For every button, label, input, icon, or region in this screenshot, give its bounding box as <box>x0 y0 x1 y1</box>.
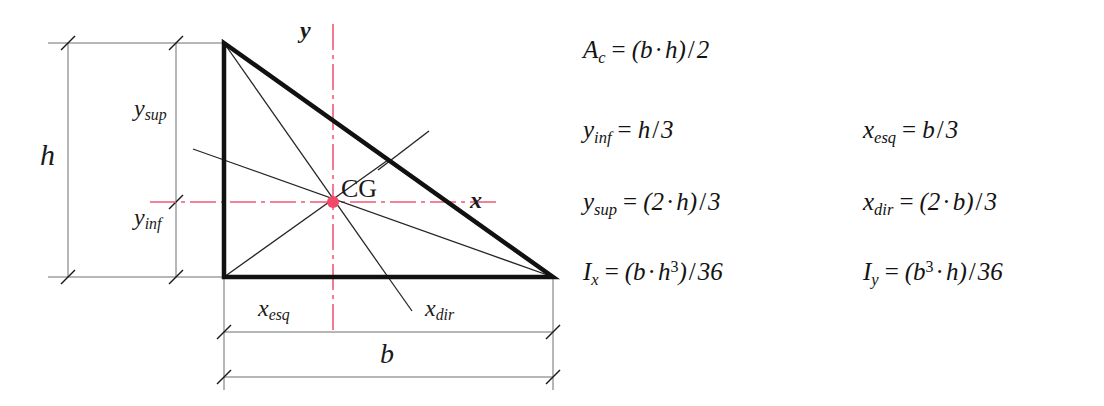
formula-x-dir: xdir=(2·b)/3 <box>863 188 997 219</box>
centroid-dot <box>327 196 339 208</box>
formula-y-sup-two: 2 <box>651 188 664 215</box>
axis-label-y: y <box>300 18 311 42</box>
formula-row-inertia: Ix=(b·h3)/36 Iy=(b3·h)/36 <box>575 258 1104 304</box>
y-sup-subscript: sup <box>145 106 167 123</box>
formula-ix-h: h <box>658 258 671 285</box>
formula-y-sup-divisor: 3 <box>708 188 721 215</box>
formula-area-lhs-sub: c <box>598 48 605 67</box>
axis-label-x: x <box>470 188 482 212</box>
formula-iy-equals: = <box>879 258 905 285</box>
dimension-ticks-vertical <box>61 36 183 284</box>
formula-y-inf-lhs: y <box>583 116 594 143</box>
formula-iy: Iy=(b3·h)/36 <box>863 258 1003 289</box>
formula-x-esq: xesq=b/3 <box>863 116 958 147</box>
formula-area-h: h <box>665 36 678 63</box>
centroid-label: CG <box>341 176 377 202</box>
formula-ix-equals: = <box>599 258 625 285</box>
formula-x-dir-open-paren: ( <box>919 188 927 215</box>
x-dir-subscript: dir <box>436 306 454 323</box>
formula-ix: Ix=(b·h3)/36 <box>583 258 723 289</box>
formula-list: Ac=(b·h)/2 yinf=h/3 xesq=b/3 ysup=(2·h)/… <box>575 0 1104 406</box>
formula-x-dir-equals: = <box>893 188 919 215</box>
triangle-centroid-diagram: h ysup yinf y x CG xesq xdir b <box>0 0 580 406</box>
formula-y-inf-equals: = <box>612 116 638 143</box>
x-esq-base: x <box>258 295 269 321</box>
y-inf-base: y <box>134 204 145 230</box>
formula-x-dir-lhs: x <box>863 188 874 215</box>
formula-iy-dot: · <box>934 258 946 285</box>
y-sup-base: y <box>134 95 145 121</box>
formula-x-esq-divisor: 3 <box>946 116 959 143</box>
formula-y-sup-lhs: y <box>583 188 594 215</box>
y-inf-subscript: inf <box>145 215 162 232</box>
formula-x-dir-two: 2 <box>928 188 941 215</box>
formula-y-sup-dot: · <box>664 188 676 215</box>
formula-x-esq-lhs-sub: esq <box>874 128 896 147</box>
formula-row-area: Ac=(b·h)/2 <box>575 36 1104 82</box>
formula-ix-divisor: 36 <box>698 258 723 285</box>
formula-area-open-paren: ( <box>632 36 640 63</box>
x-dir-base: x <box>425 295 436 321</box>
formula-area-slash: / <box>686 36 697 63</box>
formula-ix-slash: / <box>687 258 698 285</box>
formula-area-dot: · <box>653 36 665 63</box>
dimension-label-y-sup: ysup <box>134 96 167 123</box>
formula-y-inf-lhs-sub: inf <box>594 128 611 147</box>
formula-iy-b: b <box>913 258 926 285</box>
x-esq-subscript: esq <box>269 306 290 323</box>
formula-ix-lhs-sub: x <box>591 270 598 289</box>
formula-y-inf-slash: / <box>650 116 661 143</box>
formula-x-dir-divisor: 3 <box>984 188 997 215</box>
median-from-apex <box>224 43 388 277</box>
formula-area: Ac=(b·h)/2 <box>583 36 709 67</box>
formula-y-inf: yinf=h/3 <box>583 116 674 147</box>
centroidal-axes-group <box>150 24 497 330</box>
formula-iy-close-paren: ) <box>958 258 966 285</box>
formula-iy-exponent: 3 <box>926 258 934 275</box>
dimension-label-x-dir: xdir <box>425 296 454 323</box>
formula-area-equals: = <box>606 36 632 63</box>
formula-iy-open-paren: ( <box>905 258 913 285</box>
formula-x-dir-lhs-sub: dir <box>874 200 893 219</box>
formula-x-dir-b: b <box>953 188 966 215</box>
centroid-diagram-page: h ysup yinf y x CG xesq xdir b Ac=(b·h)/… <box>0 0 1104 406</box>
formula-x-dir-dot: · <box>940 188 952 215</box>
formula-iy-lhs-sub: y <box>871 270 878 289</box>
formula-y-sup-close-paren: ) <box>689 188 697 215</box>
formula-iy-slash: / <box>967 258 978 285</box>
dimension-label-h: h <box>40 140 55 170</box>
formula-area-divisor: 2 <box>697 36 710 63</box>
dimension-label-x-esq: xesq <box>258 296 290 323</box>
formula-x-esq-slash: / <box>935 116 946 143</box>
median-from-bottom-right <box>224 160 553 277</box>
formula-area-lhs: A <box>583 36 598 63</box>
median-tail-left <box>193 149 224 160</box>
formula-area-close-paren: ) <box>677 36 685 63</box>
formula-x-esq-b: b <box>922 116 935 143</box>
formula-ix-dot: · <box>646 258 658 285</box>
formula-y-sup-slash: / <box>697 188 708 215</box>
formula-y-inf-h: h <box>638 116 651 143</box>
diagram-svg <box>0 0 580 406</box>
formula-y-sup-lhs-sub: sup <box>594 200 617 219</box>
leader-line-hypotenuse <box>378 131 429 170</box>
formula-y-sup: ysup=(2·h)/3 <box>583 188 721 219</box>
formula-iy-divisor: 36 <box>978 258 1003 285</box>
formula-y-sup-equals: = <box>617 188 643 215</box>
formula-x-esq-equals: = <box>896 116 922 143</box>
formula-ix-open-paren: ( <box>625 258 633 285</box>
formula-row-upper-centroid: ysup=(2·h)/3 xdir=(2·b)/3 <box>575 188 1104 234</box>
dimension-lines-group <box>48 43 224 277</box>
formula-ix-close-paren: ) <box>678 258 686 285</box>
dimension-label-b: b <box>380 340 394 368</box>
formula-area-b: b <box>640 36 653 63</box>
formula-iy-h: h <box>946 258 959 285</box>
bottom-dimension-group <box>224 277 553 390</box>
formula-x-dir-slash: / <box>973 188 984 215</box>
dimension-label-y-inf: yinf <box>134 205 161 232</box>
formula-row-lower-centroid: yinf=h/3 xesq=b/3 <box>575 116 1104 162</box>
formula-ix-b: b <box>633 258 646 285</box>
formula-y-inf-divisor: 3 <box>661 116 674 143</box>
formula-y-sup-h: h <box>676 188 689 215</box>
leader-line-xdir <box>388 277 412 311</box>
